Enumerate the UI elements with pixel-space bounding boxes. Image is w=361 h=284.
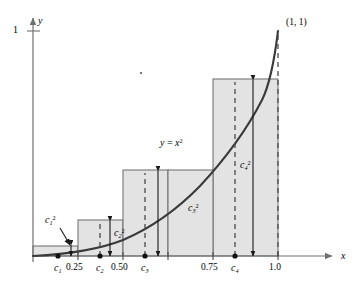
height-label-c3-exp: 2 — [196, 202, 199, 209]
riemann-sum-figure: y 1 x 0.25 0.50 0.75 1.0 c1 c2 c3 c4 y =… — [0, 0, 361, 284]
curve-equation-operator: = — [167, 137, 173, 148]
dot-c2 — [97, 253, 102, 258]
sample-label-c2: c2 — [96, 263, 104, 274]
curve-equation-lhs: y — [160, 137, 164, 148]
dot-c4 — [232, 253, 237, 258]
y-axis-label: y — [38, 16, 42, 26]
sample-label-c3: c3 — [141, 263, 149, 274]
x-tick-label-025: 0.25 — [66, 263, 83, 273]
dot-c1 — [55, 253, 60, 258]
dot-c3 — [142, 253, 147, 258]
height-label-c4: c42 — [240, 160, 251, 171]
sample-label-c2-sub: 2 — [100, 267, 103, 274]
scan-speck — [140, 72, 142, 74]
y-tick-label-1: 1 — [13, 25, 18, 35]
endpoint-label: (1, 1) — [286, 18, 307, 28]
curve-equation-label: y = x2 — [160, 138, 183, 148]
height-label-c1-exp: 2 — [53, 214, 56, 221]
x-tick-label-050: 0.50 — [111, 263, 128, 273]
height-label-c3: c32 — [188, 203, 199, 214]
sample-label-c1: c1 — [54, 263, 62, 274]
x-tick-label-075: 0.75 — [201, 263, 218, 273]
x-axis-label: x — [341, 251, 345, 261]
sample-label-c4: c4 — [231, 263, 239, 274]
height-label-c1: c12 — [45, 215, 56, 226]
height-label-c2-exp: 2 — [122, 227, 125, 234]
sample-label-c4-sub: 4 — [235, 267, 238, 274]
height-label-c2: c22 — [114, 228, 125, 239]
sample-label-c3-sub: 3 — [145, 267, 148, 274]
x-tick-label-100: 1.0 — [269, 263, 281, 273]
curve-equation-exponent: 2 — [180, 137, 183, 144]
sample-label-c1-sub: 1 — [58, 267, 61, 274]
height-label-c4-exp: 2 — [248, 159, 251, 166]
leader-arrow-c1 — [60, 228, 70, 245]
